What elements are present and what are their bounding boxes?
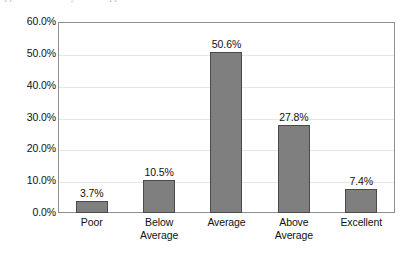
bar-slot: 7.4%: [328, 22, 395, 213]
x-axis-category-line: Poor: [58, 216, 125, 229]
bar-value-label: 50.6%: [212, 38, 241, 50]
y-axis-tick-label: 40.0%: [2, 80, 56, 91]
bar[interactable]: [345, 189, 377, 213]
x-axis-category-line: Average: [193, 216, 260, 229]
bar-value-label: 27.8%: [279, 111, 308, 123]
y-axis-tick-label: 60.0%: [2, 16, 56, 27]
x-axis-labels: PoorBelowAverageAverageAboveAverageExcel…: [58, 216, 395, 260]
x-axis-category-line: Average: [260, 229, 327, 242]
bar[interactable]: [278, 125, 310, 213]
bar-slot: 3.7%: [58, 22, 125, 213]
x-axis-category-line: Average: [125, 229, 192, 242]
bar-slot: 50.6%: [193, 22, 260, 213]
bar-slot: 10.5%: [125, 22, 192, 213]
bar-value-label: 3.7%: [80, 187, 104, 199]
x-axis-category-line: Above: [260, 216, 327, 229]
y-axis-tick-label: 10.0%: [2, 175, 56, 186]
x-axis-category-label: AboveAverage: [260, 216, 327, 242]
bar[interactable]: [210, 52, 242, 213]
bar-slot: 27.8%: [260, 22, 327, 213]
x-axis-category-label: Excellent: [328, 216, 395, 229]
bars-layer: 3.7%10.5%50.6%27.8%7.4%: [58, 22, 395, 213]
x-axis-category-line: Excellent: [328, 216, 395, 229]
y-axis-tick-label: 20.0%: [2, 143, 56, 154]
bar-chart-figure: appearance of very faint clipped text 60…: [0, 0, 411, 262]
bar[interactable]: [76, 201, 108, 213]
scan-artifact: appearance of very faint clipped text: [0, 0, 411, 7]
scan-artifact-text: appearance of very faint clipped text: [0, 0, 146, 2]
y-axis-tick-label: 30.0%: [2, 112, 56, 123]
bar-value-label: 7.4%: [350, 175, 374, 187]
bar-value-label: 10.5%: [144, 166, 173, 178]
bar[interactable]: [143, 180, 175, 213]
y-axis-tick-label: 0.0%: [2, 207, 56, 218]
x-axis-category-label: BelowAverage: [125, 216, 192, 242]
y-axis-tick-label: 50.0%: [2, 48, 56, 59]
y-axis-labels: 60.0%50.0%40.0%30.0%20.0%10.0%0.0%: [0, 22, 56, 213]
x-axis-category-line: Below: [125, 216, 192, 229]
x-axis-category-label: Poor: [58, 216, 125, 229]
x-axis-category-label: Average: [193, 216, 260, 229]
